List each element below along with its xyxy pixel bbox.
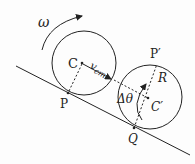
omega-label: ω: [38, 14, 50, 30]
delta-theta-arc: [137, 84, 146, 120]
center-final-dot: [147, 97, 150, 100]
point-P-prime-label: P′: [150, 47, 161, 61]
contact-P-dot: [67, 92, 70, 95]
center-final-label: C′: [151, 100, 163, 114]
contact-P-label: P: [60, 97, 68, 111]
wheel-initial: [52, 31, 116, 95]
center-initial-dot: [81, 62, 84, 65]
diagram-canvas: ω C P vcm C′ Q P′ R Δθ: [0, 0, 195, 164]
radius-R-label: R: [157, 71, 167, 85]
contact-Q-label: Q: [128, 132, 138, 146]
delta-theta-label: Δθ: [116, 92, 134, 106]
rolling-wheel-diagram: ω C P vcm C′ Q P′ R Δθ: [0, 0, 195, 164]
contact-Q-dot: [133, 127, 136, 130]
center-initial-label: C: [68, 56, 78, 71]
radius-final-dashed: [134, 64, 157, 128]
